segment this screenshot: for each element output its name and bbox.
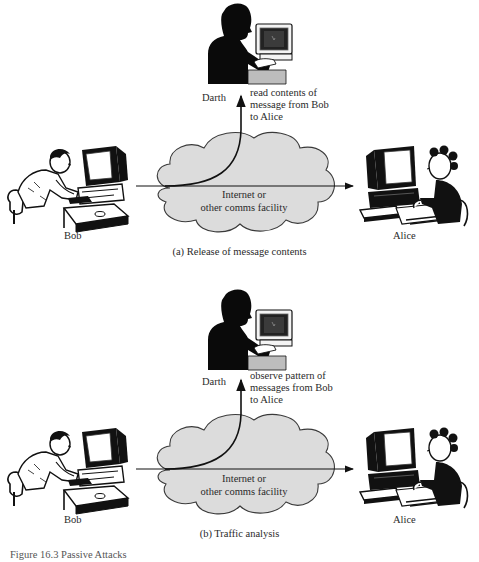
network-label: Internet or other comms facility <box>174 188 314 214</box>
bob-figure-icon <box>8 428 128 514</box>
alice-figure-icon <box>360 146 467 227</box>
annotation-line-1: read contents of <box>250 87 329 99</box>
network-cloud <box>157 133 334 232</box>
panel-b-traffic-analysis: Darth observe pattern of messages from B… <box>0 282 479 562</box>
network-cloud <box>157 415 334 514</box>
panel-caption: (a) Release of message contents <box>0 246 479 257</box>
annotation-line-2: messages from Bob <box>250 382 333 394</box>
panel-a-release-of-message-contents: Darth read contents of message from Bob … <box>0 0 479 280</box>
attack-annotation: read contents of message from Bob to Ali… <box>250 87 329 123</box>
darth-figure-icon <box>208 290 292 371</box>
figure-caption: Figure 16.3 Passive Attacks <box>10 549 127 560</box>
bob-label: Bob <box>64 230 82 242</box>
darth-figure-icon <box>208 4 292 85</box>
network-label-line-2: other comms facility <box>174 485 314 498</box>
annotation-line-1: observe pattern of <box>250 370 333 382</box>
alice-figure-icon <box>360 428 467 509</box>
network-label-line-2: other comms facility <box>174 201 314 214</box>
panel-caption: (b) Traffic analysis <box>0 528 479 539</box>
alice-label: Alice <box>393 514 416 526</box>
annotation-line-3: to Alice <box>250 111 329 123</box>
darth-label: Darth <box>202 376 226 388</box>
network-label-line-1: Internet or <box>174 188 314 201</box>
alice-label: Alice <box>393 230 416 242</box>
network-label-line-1: Internet or <box>174 472 314 485</box>
bob-figure-icon <box>8 146 128 232</box>
darth-label: Darth <box>202 92 226 104</box>
attack-annotation: observe pattern of messages from Bob to … <box>250 370 333 406</box>
bob-label: Bob <box>64 514 82 526</box>
annotation-line-3: to Alice <box>250 394 333 406</box>
annotation-line-2: message from Bob <box>250 99 329 111</box>
network-label: Internet or other comms facility <box>174 472 314 498</box>
